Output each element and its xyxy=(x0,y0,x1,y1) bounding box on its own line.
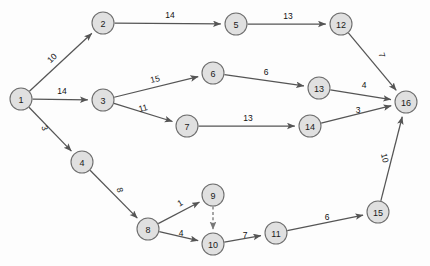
node-label-14: 14 xyxy=(305,122,315,132)
edge-weight-15-16: 10 xyxy=(379,152,391,164)
edge-weight-1-4: 3 xyxy=(39,124,50,132)
edge-weight-1-2: 10 xyxy=(45,51,59,65)
edge-weight-4-8: 8 xyxy=(115,186,126,193)
node-10[interactable]: 10 xyxy=(202,233,224,255)
node-9[interactable]: 9 xyxy=(202,184,224,206)
node-13[interactable]: 13 xyxy=(308,77,330,99)
edges-layer xyxy=(29,23,402,242)
edge-2-to-5 xyxy=(114,23,220,24)
node-6[interactable]: 6 xyxy=(202,62,224,84)
node-label-8: 8 xyxy=(145,225,150,235)
node-8[interactable]: 8 xyxy=(137,218,159,240)
edge-weight-11-15: 6 xyxy=(325,212,330,222)
node-7[interactable]: 7 xyxy=(176,115,198,137)
network-graph: 10143141511813613147674310 1234567891011… xyxy=(0,0,430,266)
node-14[interactable]: 14 xyxy=(299,115,321,137)
node-label-11: 11 xyxy=(271,229,280,239)
node-12[interactable]: 12 xyxy=(330,13,352,35)
node-16[interactable]: 16 xyxy=(395,91,417,113)
edge-weight-5-12: 13 xyxy=(283,11,293,21)
network-diagram-canvas: 10143141511813613147674310 1234567891011… xyxy=(0,0,430,266)
node-11[interactable]: 11 xyxy=(265,222,287,244)
edge-1-to-3 xyxy=(32,99,87,100)
node-label-3: 3 xyxy=(100,96,105,106)
node-label-16: 16 xyxy=(401,98,411,108)
edge-weight-12-16: 7 xyxy=(377,51,388,58)
edge-1-to-2 xyxy=(29,33,91,91)
node-label-6: 6 xyxy=(210,69,215,79)
node-label-1: 1 xyxy=(18,95,23,105)
node-4[interactable]: 4 xyxy=(71,151,93,173)
node-label-13: 13 xyxy=(314,84,324,94)
node-15[interactable]: 15 xyxy=(367,201,389,223)
edge-weight-14-16: 3 xyxy=(356,105,361,115)
edge-weight-1-3: 14 xyxy=(57,86,67,96)
edge-13-to-16 xyxy=(330,90,391,100)
edge-weight-10-11: 7 xyxy=(243,230,248,240)
node-2[interactable]: 2 xyxy=(92,12,114,34)
node-3[interactable]: 3 xyxy=(92,89,114,111)
edge-weight-8-10: 4 xyxy=(179,228,184,238)
edge-weight-7-14: 13 xyxy=(243,113,253,123)
node-label-4: 4 xyxy=(79,158,84,168)
edge-weight-2-5: 14 xyxy=(165,10,175,20)
edge-weight-6-13: 6 xyxy=(264,67,269,77)
node-label-15: 15 xyxy=(373,208,383,218)
edge-4-to-8 xyxy=(90,170,137,218)
edge-weight-3-7: 11 xyxy=(137,102,148,114)
node-label-9: 9 xyxy=(210,191,215,201)
node-label-10: 10 xyxy=(208,240,218,250)
node-label-2: 2 xyxy=(100,19,105,29)
edge-1-to-4 xyxy=(29,107,71,151)
node-label-5: 5 xyxy=(233,20,238,30)
node-label-7: 7 xyxy=(184,122,189,132)
edge-weight-13-16: 4 xyxy=(362,80,367,90)
node-1[interactable]: 1 xyxy=(10,88,32,110)
edge-12-to-16 xyxy=(348,33,396,90)
edge-weight-3-6: 15 xyxy=(149,73,161,85)
node-label-12: 12 xyxy=(336,20,346,30)
edge-weight-8-9: 1 xyxy=(175,197,184,208)
node-5[interactable]: 5 xyxy=(225,13,247,35)
